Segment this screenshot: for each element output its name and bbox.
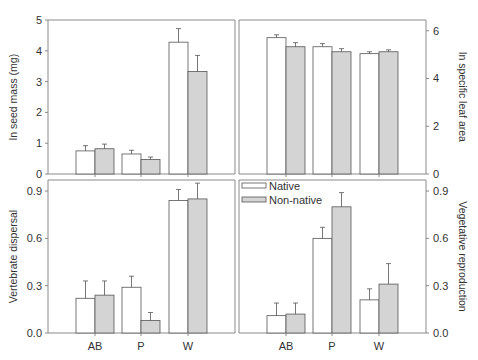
y-tick-label: 0.3 [27,280,42,292]
y-tick-label: 0.3 [433,280,448,292]
bar-nonnative-p [141,160,160,174]
legend-label-nonnative: Non-native [269,194,322,206]
bar-nonnative-w [379,52,398,174]
x-tick-label: P [328,340,335,352]
bar-nonnative-p [332,207,351,333]
y-tick-label: 6 [433,25,439,37]
bar-nonnative-ab [286,314,305,333]
bar-native-p [313,47,332,174]
bar-native-ab [76,151,95,174]
y-tick-label: 1 [36,137,42,149]
legend-swatch-nonnative [242,197,266,202]
y-tick-label: 0 [36,168,42,180]
bar-nonnative-ab [95,149,114,174]
bar-native-p [313,238,332,333]
y-tick-label: 0.0 [433,327,448,339]
y-tick-label: 0.6 [27,232,42,244]
y-tick-label: 5 [36,14,42,26]
x-tick-label: W [374,340,385,352]
legend-label-native: Native [269,180,300,192]
bar-native-ab [267,316,286,333]
panel-top-left: 012345ln seed mass (mg) [7,14,235,180]
y-tick-label: 0 [433,168,439,180]
legend-swatch-native [242,183,266,188]
bar-native-p [122,154,141,174]
panels: 012345ln seed mass (mg)0246ln specific l… [7,14,469,352]
bar-native-w [169,42,188,174]
bar-native-w [360,300,379,333]
figure: 012345ln seed mass (mg)0246ln specific l… [0,0,478,360]
panel-bottom-left: 0.00.30.60.9Vertebrate dispersalABPW [7,180,235,352]
bar-native-w [169,201,188,333]
y-tick-label: 0.0 [27,327,42,339]
bar-native-ab [76,298,95,333]
y-axis-title: Vertebrate dispersal [7,210,19,303]
bar-nonnative-w [188,71,207,174]
x-tick-label: W [183,340,194,352]
bar-nonnative-ab [95,295,114,333]
y-tick-label: 2 [433,120,439,132]
bar-native-p [122,287,141,333]
y-tick-label: 2 [36,106,42,118]
y-tick-label: 4 [36,45,42,57]
x-tick-label: P [137,340,144,352]
bar-nonnative-w [188,199,207,333]
bar-nonnative-ab [286,47,305,174]
y-tick-label: 0.9 [433,185,448,197]
x-tick-label: AB [279,340,294,352]
x-tick-label: AB [88,340,103,352]
legend: Native Non-native [242,180,322,206]
bar-native-ab [267,38,286,174]
y-tick-label: 4 [433,72,439,84]
y-tick-label: 3 [36,76,42,88]
bar-nonnative-w [379,284,398,333]
panel-top-right: 0246ln specific leaf area [239,20,469,180]
bar-native-w [360,54,379,174]
y-tick-label: 0.6 [433,232,448,244]
y-axis-title: ln seed mass (mg) [7,54,19,140]
y-axis-title: Vegetative reproduction [457,201,469,311]
bar-nonnative-p [141,320,160,333]
y-tick-label: 0.9 [27,185,42,197]
bar-nonnative-p [332,52,351,174]
y-axis-title: ln specific leaf area [457,52,469,142]
